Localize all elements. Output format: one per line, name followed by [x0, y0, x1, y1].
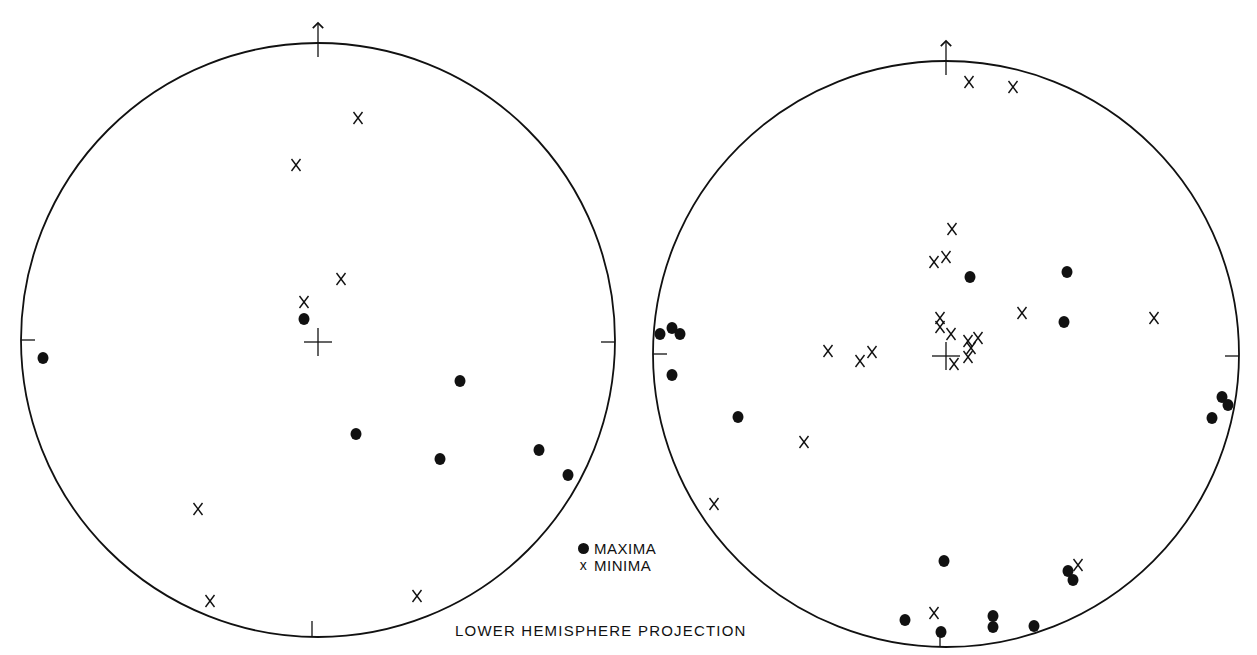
- legend-item-maxima: MAXIMA: [578, 540, 656, 557]
- minima-point: [800, 436, 809, 448]
- legend: MAXIMA x MINIMA: [578, 540, 656, 574]
- maxima-point: [1068, 574, 1079, 586]
- minima-point: [194, 503, 203, 515]
- minima-point: [964, 335, 973, 347]
- maxima-point: [733, 411, 744, 423]
- filled-circle-icon: [578, 543, 589, 554]
- maxima-point: [563, 469, 574, 481]
- maxima-point: [1059, 316, 1070, 328]
- minima-point: [354, 112, 363, 124]
- maxima-point: [1223, 399, 1234, 411]
- maxima-point: [655, 328, 666, 340]
- stereonet-left: [21, 23, 615, 637]
- legend-item-minima: x MINIMA: [578, 557, 656, 574]
- minima-point: [1018, 307, 1027, 319]
- maxima-point: [1207, 412, 1218, 424]
- minima-point: [936, 321, 945, 333]
- minima-point: [947, 328, 956, 340]
- maxima-point: [900, 614, 911, 626]
- minima-point: [337, 273, 346, 285]
- maxima-point: [988, 621, 999, 633]
- minima-point: [930, 256, 939, 268]
- maxima-point: [435, 453, 446, 465]
- minima-point: [1074, 559, 1083, 571]
- minima-point: [868, 346, 877, 358]
- minima-point: [206, 595, 215, 607]
- maxima-point: [351, 428, 362, 440]
- minima-point: [710, 498, 719, 510]
- minima-point: [292, 159, 301, 171]
- maxima-point: [675, 328, 686, 340]
- x-mark-icon: x: [578, 557, 589, 574]
- minima-point: [950, 358, 959, 370]
- legend-label-minima: MINIMA: [594, 557, 651, 574]
- minima-point: [824, 345, 833, 357]
- minima-point: [965, 76, 974, 88]
- stereonet-right: [653, 41, 1239, 647]
- minima-point: [948, 223, 957, 235]
- maxima-point: [455, 375, 466, 387]
- maxima-point: [936, 626, 947, 638]
- maxima-point: [988, 610, 999, 622]
- minima-point: [1150, 312, 1159, 324]
- maxima-point: [38, 352, 49, 364]
- maxima-point: [534, 444, 545, 456]
- maxima-point: [965, 271, 976, 283]
- minima-point: [942, 251, 951, 263]
- figure-caption: LOWER HEMISPHERE PROJECTION: [455, 622, 747, 639]
- maxima-point: [939, 555, 950, 567]
- maxima-point: [299, 313, 310, 325]
- maxima-point: [1029, 620, 1040, 632]
- minima-point: [930, 607, 939, 619]
- maxima-point: [1062, 266, 1073, 278]
- maxima-point: [667, 369, 678, 381]
- minima-point: [413, 590, 422, 602]
- minima-point: [300, 296, 309, 308]
- legend-label-maxima: MAXIMA: [594, 540, 656, 557]
- minima-point: [1009, 81, 1018, 93]
- minima-point: [856, 355, 865, 367]
